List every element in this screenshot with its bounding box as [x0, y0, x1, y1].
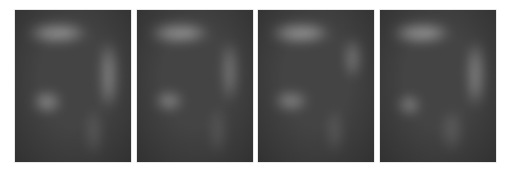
- top-bar-blob: [270, 24, 330, 42]
- top-bar-blob: [149, 24, 209, 42]
- thermal-panel-2: [137, 10, 253, 162]
- lower-right-streak-blob: [211, 108, 225, 156]
- top-bar-blob: [392, 24, 450, 42]
- thermal-panel-3: [258, 10, 374, 162]
- lower-left-blob-blob: [398, 96, 420, 114]
- lower-right-streak-blob: [87, 110, 101, 156]
- thermal-panel-1: [15, 10, 131, 162]
- right-bar-blob: [101, 40, 117, 110]
- top-bar-blob: [27, 24, 87, 42]
- thermal-panel-4: [380, 10, 496, 162]
- right-bar-blob: [468, 40, 484, 108]
- lower-left-blob-blob: [33, 92, 61, 112]
- lower-right-streak-blob: [328, 110, 342, 154]
- lower-left-blob-blob: [155, 92, 183, 110]
- lower-left-blob-blob: [274, 92, 308, 110]
- right-bar-blob: [223, 40, 237, 102]
- right-bar-blob: [346, 38, 360, 78]
- lower-right-streak-blob: [442, 110, 462, 152]
